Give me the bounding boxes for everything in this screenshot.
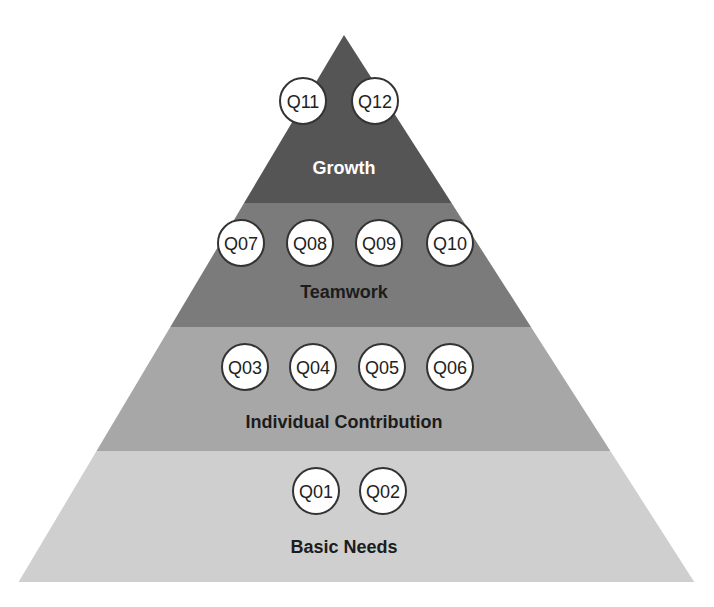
question-bubble-q12: Q12 — [352, 78, 398, 124]
question-bubble-q01: Q01 — [293, 468, 339, 514]
question-label: Q11 — [287, 92, 320, 112]
question-label: Q07 — [224, 234, 258, 254]
question-label: Q03 — [228, 358, 262, 378]
question-bubble-q10: Q10 — [427, 220, 473, 266]
question-bubble-q08: Q08 — [287, 220, 333, 266]
question-label: Q12 — [358, 92, 392, 112]
question-bubble-q09: Q09 — [356, 220, 402, 266]
layer-growth: Q11Q12Growth — [244, 35, 452, 203]
layer-label-basic-needs: Basic Needs — [290, 537, 397, 557]
question-bubble-q02: Q02 — [360, 468, 406, 514]
question-label: Q08 — [293, 234, 327, 254]
layer-basic-needs: Q01Q02Basic Needs — [19, 451, 695, 582]
layer-band — [19, 451, 695, 582]
engagement-pyramid-diagram: Q11Q12GrowthQ07Q08Q09Q10TeamworkQ03Q04Q0… — [0, 0, 714, 607]
question-label: Q04 — [296, 358, 330, 378]
question-label: Q02 — [366, 482, 400, 502]
question-label: Q06 — [433, 358, 467, 378]
question-bubble-q11: Q11 — [280, 78, 326, 124]
question-label: Q01 — [299, 482, 333, 502]
layer-label-teamwork: Teamwork — [300, 282, 389, 302]
layer-individual-contribution: Q03Q04Q05Q06Individual Contribution — [97, 327, 611, 451]
layer-band — [170, 203, 531, 327]
question-bubble-q06: Q06 — [427, 344, 473, 390]
layer-label-individual-contribution: Individual Contribution — [246, 412, 443, 432]
question-bubble-q04: Q04 — [290, 344, 336, 390]
question-label: Q10 — [433, 234, 467, 254]
question-label: Q09 — [362, 234, 396, 254]
layer-teamwork: Q07Q08Q09Q10Teamwork — [170, 203, 531, 327]
question-bubble-q03: Q03 — [222, 344, 268, 390]
question-bubble-q05: Q05 — [359, 344, 405, 390]
layer-band — [97, 327, 611, 451]
layer-label-growth: Growth — [313, 158, 376, 178]
question-label: Q05 — [365, 358, 399, 378]
question-bubble-q07: Q07 — [218, 220, 264, 266]
